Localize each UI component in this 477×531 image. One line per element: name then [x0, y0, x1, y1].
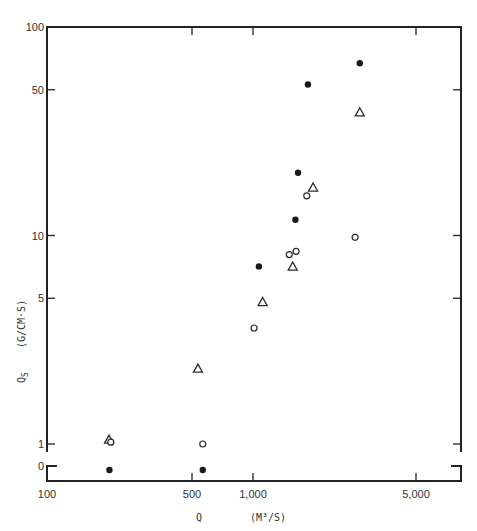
scatter-chart: 1005010510 1005001,0005,000 Q (M³/S) QS …: [0, 0, 477, 531]
x-axis-ticks: 1005001,0005,000: [38, 27, 430, 500]
open-circle-marker: [108, 439, 114, 445]
x-axis-units-text: (M³/S): [250, 512, 286, 523]
y-tick-label: 10: [32, 230, 44, 242]
open-circle-marker: [304, 193, 310, 199]
plot-frame: [47, 27, 461, 481]
y-axis-ticks: 1005010510: [26, 21, 461, 472]
y-axis-symbol-subscript: S: [21, 372, 30, 377]
y-axis-title-units-group: (G/CM·S): [16, 300, 27, 348]
filled-circle-marker: [106, 467, 112, 473]
y-axis-title-units: (G/CM·S): [16, 300, 27, 348]
x-axis-title-symbol: Q: [196, 512, 202, 523]
filled-circle-marker: [295, 170, 301, 176]
x-axis-title-units: (M³/S): [250, 512, 286, 523]
open-triangle-marker: [309, 183, 318, 191]
open-triangle-marker: [258, 297, 267, 305]
x-tick-label: 1,000: [239, 488, 267, 500]
open-circle-marker: [251, 325, 257, 331]
x-tick-label: 500: [183, 488, 201, 500]
filled-circle-marker: [305, 81, 311, 87]
y-tick-label: 0: [38, 460, 44, 472]
y-tick-label: 100: [26, 21, 44, 33]
open-circle-marker: [293, 248, 299, 254]
plot-border-upper: [47, 27, 461, 452]
open-triangle-marker: [288, 262, 297, 270]
y-axis-title-symbol-group: QS: [16, 372, 30, 383]
filled-circle-marker: [256, 263, 262, 269]
x-tick-label: 5,000: [402, 488, 430, 500]
open-circle-marker: [286, 252, 292, 258]
y-tick-label: 50: [32, 84, 44, 96]
open-circle-marker: [200, 441, 206, 447]
filled-circle-marker: [292, 217, 298, 223]
open-triangle-marker: [355, 108, 364, 116]
open-triangle-marker: [193, 364, 202, 372]
filled-circle-marker: [357, 60, 363, 66]
data-points: [104, 60, 364, 473]
y-axis-title-symbol: QS: [16, 372, 30, 383]
y-tick-label: 5: [38, 292, 44, 304]
open-circle-marker: [352, 234, 358, 240]
y-tick-label: 1: [38, 438, 44, 450]
filled-circle-marker: [200, 467, 206, 473]
x-tick-label: 100: [38, 488, 56, 500]
